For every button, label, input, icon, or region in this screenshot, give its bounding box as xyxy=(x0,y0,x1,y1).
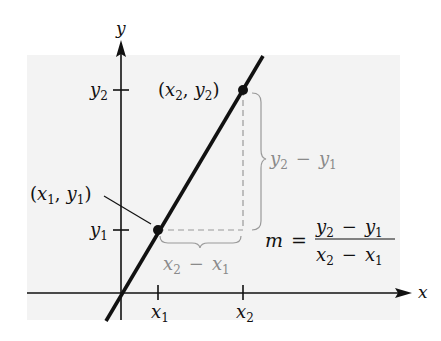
point-1-marker xyxy=(153,225,163,235)
point-2-marker xyxy=(238,85,248,95)
run-label: x2−x1 xyxy=(163,253,230,277)
slope-diagram: y x y2 y1 x1 x2 y2−y1 x2−x1 (x1,y1) (x2,… xyxy=(0,0,441,341)
formula-numerator: y2−y1 xyxy=(315,216,383,240)
x-axis-label: x xyxy=(418,282,428,302)
y-axis-label: y xyxy=(115,18,126,38)
formula-denominator: x2−x1 xyxy=(316,244,383,268)
rise-label: y2−y1 xyxy=(269,148,337,172)
